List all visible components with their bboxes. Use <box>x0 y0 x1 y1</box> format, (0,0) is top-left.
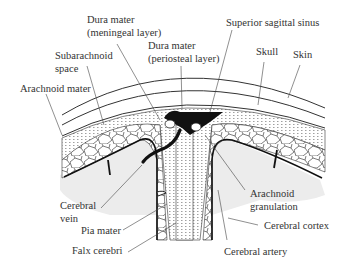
label-arachnoid-granulation: Arachnoid granulation <box>250 188 298 213</box>
label-arachnoid-mater: Arachnoid mater <box>20 83 91 96</box>
label-dura-periosteal: Dura mater (periosteal layer) <box>148 40 219 65</box>
label-text: Arachnoid <box>250 188 298 201</box>
arachnoid-granulation-left <box>165 120 175 128</box>
label-superior-sagittal-sinus: Superior sagittal sinus <box>226 17 319 30</box>
label-cerebral-cortex: Cerebral cortex <box>264 220 329 233</box>
label-text: Dura mater <box>148 40 219 53</box>
label-text: space <box>55 63 113 76</box>
label-skull: Skull <box>256 46 278 59</box>
label-cerebral-vein: Cerebral vein <box>60 200 96 225</box>
label-text: (periosteal layer) <box>148 53 219 66</box>
label-cerebral-artery: Cerebral artery <box>224 246 287 259</box>
label-skin: Skin <box>293 49 312 62</box>
label-text: Dura mater <box>87 14 161 27</box>
label-dura-meningeal: Dura mater (meningeal layer) <box>87 14 161 39</box>
label-pia-mater: Pia mater <box>81 225 121 238</box>
arachnoid-granulation-right <box>191 123 201 131</box>
label-text: Cerebral <box>60 200 96 213</box>
label-text: vein <box>60 213 96 226</box>
label-text: Subarachnoid <box>55 50 113 63</box>
falx-cerebri <box>176 125 193 240</box>
label-text: granulation <box>250 201 298 214</box>
label-falx-cerebri: Falx cerebri <box>72 245 122 258</box>
label-subarachnoid-space: Subarachnoid space <box>55 50 113 75</box>
label-text: (meningeal layer) <box>87 27 161 40</box>
